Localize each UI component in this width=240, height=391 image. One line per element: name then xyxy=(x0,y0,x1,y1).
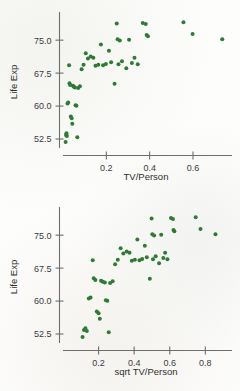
y-tick-label-top-0: 52.5 xyxy=(34,134,52,144)
data-point xyxy=(89,296,93,300)
y-tick-label-bottom-2: 67.5 xyxy=(34,264,52,274)
x-ticks-bottom: 0.20.40.60.8 xyxy=(92,347,211,368)
data-point xyxy=(85,329,89,333)
data-point xyxy=(121,252,125,256)
y-tick-label-top-2: 67.5 xyxy=(34,69,52,79)
data-point xyxy=(64,140,68,144)
data-point xyxy=(81,335,85,339)
data-point xyxy=(65,134,69,138)
data-point xyxy=(93,278,97,282)
plot-area-bottom: 52.560.067.575.0 0.20.40.60.8 sqrt TV/Pe… xyxy=(0,195,240,391)
data-point xyxy=(161,256,165,260)
data-point xyxy=(220,37,224,41)
scatter-panel-sqrt-tv-per-person: 52.560.067.575.0 0.20.40.60.8 sqrt TV/Pe… xyxy=(0,195,240,391)
data-point xyxy=(135,238,139,242)
data-point xyxy=(191,32,195,36)
data-point xyxy=(151,257,155,261)
data-point xyxy=(107,330,111,334)
data-point xyxy=(113,82,117,86)
y-axis-title-top: Life Exp xyxy=(8,65,19,99)
data-point xyxy=(172,229,176,233)
data-point xyxy=(67,63,71,67)
data-point xyxy=(91,258,95,262)
data-point xyxy=(127,38,131,42)
data-point xyxy=(159,233,163,237)
data-point xyxy=(148,277,152,281)
data-point xyxy=(133,258,137,262)
data-point xyxy=(96,63,100,67)
y-tick-label-bottom-1: 60.0 xyxy=(34,296,52,306)
data-point xyxy=(150,216,154,220)
data-point xyxy=(133,56,137,60)
y-tick-label-bottom-0: 52.5 xyxy=(34,329,52,339)
x-tick-label-bottom-0: 0.2 xyxy=(92,358,105,368)
x-tick-label-top-0: 0.2 xyxy=(100,163,113,173)
data-point xyxy=(70,122,74,126)
data-point xyxy=(111,279,115,283)
data-point xyxy=(124,66,128,70)
data-point xyxy=(199,227,203,231)
data-point xyxy=(118,39,122,43)
data-points-top xyxy=(64,20,225,144)
data-point xyxy=(66,101,70,105)
data-point xyxy=(145,255,149,259)
data-point xyxy=(152,234,156,238)
data-point xyxy=(109,60,113,64)
x-axis-title-top: TV/Person xyxy=(124,171,169,182)
figure-page: 52.560.067.575.0 0.20.40.6 TV/Person Lif… xyxy=(0,0,240,391)
data-point xyxy=(91,56,95,60)
data-point xyxy=(105,299,109,303)
data-point xyxy=(97,311,101,315)
data-point xyxy=(194,215,198,219)
scatter-svg-top: 52.560.067.575.0 0.20.40.6 TV/Person Lif… xyxy=(0,0,240,196)
x-tick-label-bottom-3: 0.8 xyxy=(199,358,212,368)
data-point xyxy=(84,51,88,55)
scatter-svg-bottom: 52.560.067.575.0 0.20.40.60.8 sqrt TV/Pe… xyxy=(0,195,240,391)
data-point xyxy=(146,34,150,38)
y-tick-label-bottom-3: 75.0 xyxy=(34,231,52,241)
data-point xyxy=(130,61,134,65)
data-point xyxy=(154,254,158,258)
data-point xyxy=(163,251,167,255)
data-point xyxy=(165,257,169,261)
data-point xyxy=(98,317,102,321)
data-point xyxy=(140,257,144,261)
data-points-bottom xyxy=(81,215,218,339)
data-point xyxy=(128,251,132,255)
x-axis-title-bottom: sqrt TV/Person xyxy=(114,366,177,377)
data-point xyxy=(104,62,108,66)
data-point xyxy=(181,20,185,24)
data-point xyxy=(213,232,217,236)
data-point xyxy=(107,49,111,53)
data-point xyxy=(75,135,79,139)
data-point xyxy=(70,116,74,120)
data-point xyxy=(82,63,86,67)
data-point xyxy=(99,43,103,47)
data-point xyxy=(80,67,84,71)
data-point xyxy=(113,262,117,266)
x-ticks-top: 0.20.40.6 xyxy=(100,152,199,173)
data-point xyxy=(171,217,175,221)
y-axis-title-bottom: Life Exp xyxy=(8,260,19,294)
data-point xyxy=(115,21,119,25)
data-point xyxy=(116,258,120,262)
plot-area-top: 52.560.067.575.0 0.20.40.6 TV/Person Lif… xyxy=(0,0,240,196)
y-tick-label-top-3: 75.0 xyxy=(34,36,52,46)
data-point xyxy=(78,84,82,88)
data-point xyxy=(119,246,123,250)
data-point xyxy=(136,62,140,66)
data-point xyxy=(144,22,148,26)
x-tick-label-top-2: 0.6 xyxy=(187,163,200,173)
data-point xyxy=(103,281,107,285)
data-point xyxy=(74,104,78,108)
data-point xyxy=(120,59,124,63)
data-point xyxy=(116,62,120,66)
data-point xyxy=(143,244,147,248)
y-tick-label-top-1: 60.0 xyxy=(34,101,52,111)
data-point xyxy=(157,261,161,265)
scatter-panel-tv-per-person: 52.560.067.575.0 0.20.40.6 TV/Person Lif… xyxy=(0,0,240,196)
